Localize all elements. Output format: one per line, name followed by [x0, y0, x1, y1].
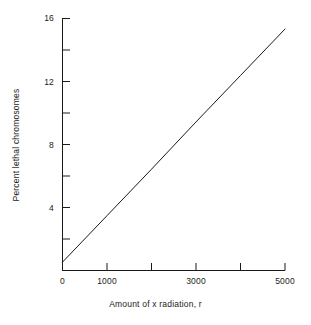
x-axis-ticks: [107, 263, 285, 271]
y-axis-title: Percent lethal chromosomes: [5, 0, 27, 290]
x-tick-label-0: 0: [60, 276, 65, 286]
x-tick-label-5000: 5000: [275, 276, 295, 286]
chart-figure: 16 12 8 4 0 1000 3000 5000 Amount of x r…: [0, 0, 311, 325]
y-tick-label-8: 8: [30, 140, 54, 150]
y-tick-label-12: 12: [30, 77, 54, 87]
y-tick-label-4: 4: [30, 203, 54, 213]
data-series: [63, 29, 286, 262]
x-tick-label-1000: 1000: [97, 276, 117, 286]
y-axis-ticks: [63, 19, 71, 240]
x-tick-label-3000: 3000: [186, 276, 206, 286]
plot-canvas: [0, 0, 311, 325]
y-tick-label-16: 16: [30, 13, 54, 23]
data-line-lethal-chromosomes-vs-dose: [63, 29, 286, 262]
axes: [62, 18, 285, 271]
y-axis-title-text: Percent lethal chromosomes: [11, 89, 21, 202]
x-axis-title: Amount of x radiation, r: [0, 299, 311, 309]
